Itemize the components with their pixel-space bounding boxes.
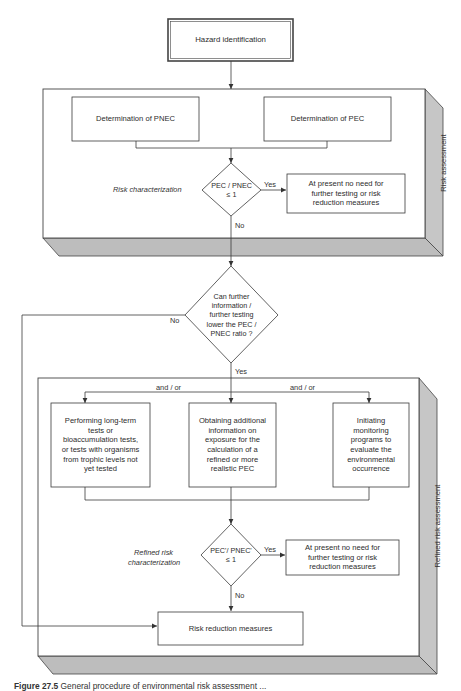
figure-caption-prefix: Figure 27.5: [14, 681, 58, 691]
pec-pnec-decision-line1: PEC / PNEC: [211, 181, 252, 190]
monitoring-programs-box: Initiating monitoring programs to evalua…: [333, 403, 409, 487]
refined-decision-line1: PEC'/ PNEC': [210, 546, 252, 555]
determination-pec-box: Determination of PEC: [264, 97, 391, 141]
no-need-box-1: At present no need for further testing o…: [287, 174, 405, 213]
no-label-3: No: [235, 591, 244, 600]
no-need-label-1: At present no need for further testing o…: [299, 179, 393, 208]
no-label-1: No: [235, 221, 244, 230]
refined-risk-assessment-side-label: Refined risk assessment: [433, 456, 443, 596]
no-need-label-2: At present no need for further testing o…: [296, 543, 389, 572]
hazard-identification-label: Hazard identification: [195, 35, 266, 45]
yes-label-2: Yes: [235, 367, 247, 376]
risk-reduction-measures-label: Risk reduction measures: [189, 624, 273, 634]
further-testing-decision-text: Can further information / further testin…: [196, 278, 267, 352]
determination-pnec-label: Determination of PNEC: [96, 114, 175, 124]
figure-caption-text: General procedure of environmental risk …: [58, 681, 266, 691]
and-or-label-1: and / or: [156, 383, 181, 392]
no-label-2: No: [170, 316, 179, 325]
pec-pnec-decision-text: PEC / PNEC ≤ 1: [203, 176, 260, 204]
long-term-tests-box: Performing long-term tests or bioaccumul…: [51, 403, 150, 487]
figure-caption: Figure 27.5 General procedure of environ…: [14, 681, 266, 691]
risk-assessment-side-label: Risk assessment: [439, 103, 449, 223]
pec-pnec-decision-line2: ≤ 1: [211, 190, 252, 199]
yes-label-3: Yes: [264, 545, 276, 554]
monitoring-programs-label: Initiating monitoring programs to evalua…: [339, 416, 403, 474]
risk-reduction-measures-box: Risk reduction measures: [158, 612, 303, 645]
refined-decision-line2: ≤ 1: [210, 555, 252, 564]
refined-pec-pnec-decision-text: PEC'/ PNEC' ≤ 1: [202, 541, 260, 569]
determination-pnec-box: Determination of PNEC: [72, 97, 199, 141]
refined-risk-characterization-label-2: characterization: [128, 558, 180, 567]
long-term-tests-label: Performing long-term tests or bioaccumul…: [61, 416, 140, 474]
further-testing-decision-label: Can further information / further testin…: [204, 292, 260, 338]
additional-exposure-info-label: Obtaining additional information on expo…: [197, 416, 268, 474]
risk-characterization-label: Risk characterization: [113, 185, 182, 194]
refined-risk-characterization-label-1: Refined risk: [134, 548, 173, 557]
additional-exposure-info-box: Obtaining additional information on expo…: [189, 403, 276, 487]
no-need-box-2: At present no need for further testing o…: [286, 540, 399, 575]
and-or-label-2: and / or: [290, 383, 315, 392]
hazard-identification-box: Hazard identification: [168, 19, 293, 61]
determination-pec-label: Determination of PEC: [291, 114, 364, 124]
yes-label-1: Yes: [264, 180, 276, 189]
